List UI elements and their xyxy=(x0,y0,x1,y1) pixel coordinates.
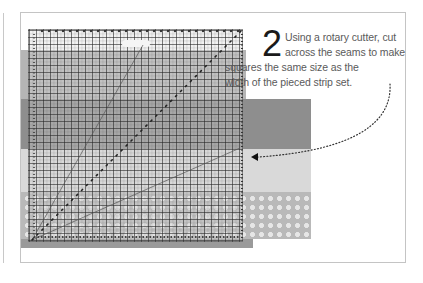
previous-panel-edge xyxy=(0,13,4,263)
ruler-handle xyxy=(122,40,150,47)
instruction-step: 2 Using a rotary cutter, cut across the … xyxy=(262,30,402,90)
quilting-ruler xyxy=(28,29,243,242)
instruction-line-1: Using a rotary cutter, cut xyxy=(262,30,402,45)
step-number: 2 xyxy=(262,29,282,59)
instruction-line-4: width of the pieced strip set. xyxy=(225,75,402,90)
instruction-line-2: across the seams to make xyxy=(262,45,402,60)
instruction-line-3: squares the same size as the xyxy=(225,60,402,75)
